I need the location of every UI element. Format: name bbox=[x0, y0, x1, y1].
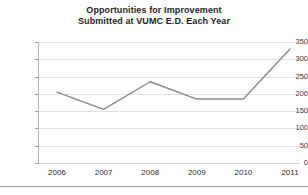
data-series-line bbox=[0, 0, 308, 195]
series-polyline bbox=[57, 49, 290, 110]
figure-bottom-border bbox=[0, 186, 308, 187]
plot-area: 050100150200250300350 200620072008200920… bbox=[0, 0, 308, 195]
chart-figure: Opportunities for Improvement Submitted … bbox=[0, 0, 308, 195]
